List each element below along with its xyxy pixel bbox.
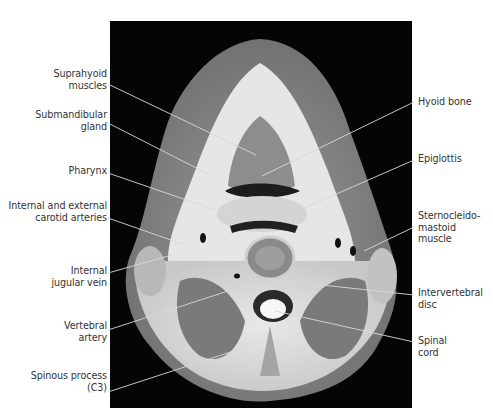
label-line: Vertebral [64,320,107,332]
label-line: Epiglottis [418,153,462,165]
label-epiglottis: Epiglottis [418,153,462,165]
label-line: Pharynx [69,165,107,177]
neck-section-illustration [110,21,412,408]
cross-section-photo [110,21,412,408]
label-line: Internal and external [9,200,108,212]
label-sternocleidomastoid-muscle: Sternocleido- mastoid muscle [418,210,480,245]
label-vertebral-artery: Vertebral artery [64,320,107,343]
label-line: Intervertebral [418,287,483,299]
label-spinous-process: Spinous process (C3) [31,370,107,393]
label-line: muscles [54,80,107,92]
label-hyoid-bone: Hyoid bone [418,96,472,108]
label-line: muscle [418,233,480,245]
label-line: (C3) [31,382,107,394]
label-line: carotid arteries [9,212,108,224]
label-line: disc [418,299,483,311]
label-carotid-arteries: Internal and external carotid arteries [9,200,108,223]
label-line: Submandibular [35,109,107,121]
label-line: Internal [51,265,107,277]
label-line: Spinous process [31,370,107,382]
label-line: jugular vein [51,277,107,289]
label-line: Suprahyoid [54,68,107,80]
label-line: mastoid [418,222,480,234]
label-pharynx: Pharynx [69,165,107,177]
label-intervertebral-disc: Intervertebral disc [418,287,483,310]
label-line: cord [418,347,447,359]
label-line: Spinal [418,335,447,347]
label-line: artery [64,332,107,344]
label-suprahyoid-muscles: Suprahyoid muscles [54,68,107,91]
label-spinal-cord: Spinal cord [418,335,447,358]
label-internal-jugular-vein: Internal jugular vein [51,265,107,288]
label-submandibular-gland: Submandibular gland [35,109,107,132]
label-line: Hyoid bone [418,96,472,108]
label-line: gland [35,121,107,133]
label-line: Sternocleido- [418,210,480,222]
